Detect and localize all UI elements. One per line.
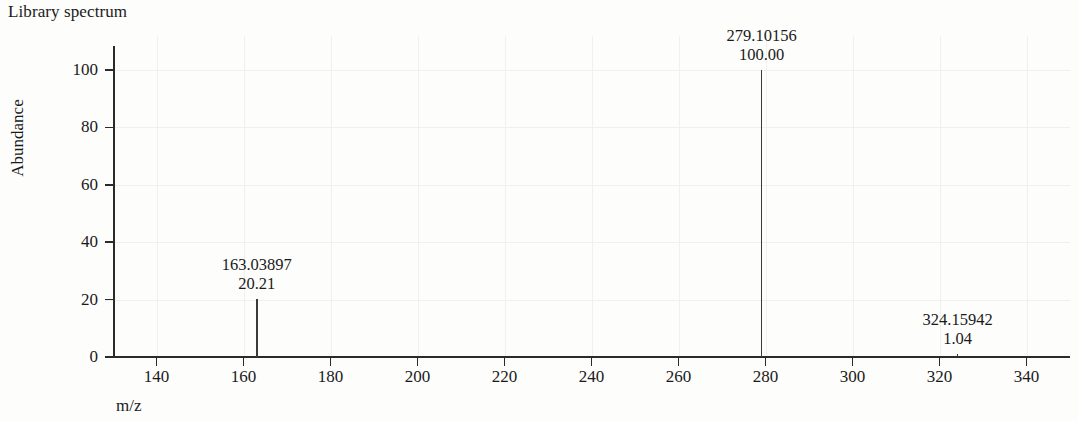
y-axis-tick <box>105 299 114 301</box>
x-axis-tick-label: 320 <box>910 368 970 385</box>
y-axis-tick-label: 20 <box>52 291 98 308</box>
x-axis-tick-label: 300 <box>823 368 883 385</box>
y-axis-tick <box>105 356 114 358</box>
peak-label: 163.0389720.21 <box>162 255 352 294</box>
x-axis-tick <box>852 357 854 366</box>
gridline-vertical <box>157 36 158 359</box>
peak-label: 324.159421.04 <box>863 310 1053 349</box>
gridline-vertical <box>331 36 332 359</box>
gridline-horizontal <box>105 127 1070 128</box>
x-axis-tick <box>939 357 941 366</box>
peak-abundance-value: 1.04 <box>863 329 1053 348</box>
x-axis-title: m/z <box>116 396 142 416</box>
y-axis-tick-label: 40 <box>52 233 98 250</box>
peak-mz-value: 324.15942 <box>863 310 1053 329</box>
y-axis-tick-label: 100 <box>52 61 98 78</box>
x-axis-tick-label: 160 <box>214 368 274 385</box>
x-axis-tick <box>417 357 419 366</box>
y-axis-title: Abundance <box>8 78 28 198</box>
x-axis-tick-label: 240 <box>562 368 622 385</box>
mass-spectrum-figure: Library spectrum Abundance m/z 020406080… <box>0 0 1078 421</box>
y-axis-tick-label: 0 <box>52 348 98 365</box>
x-axis-tick-label: 280 <box>736 368 796 385</box>
y-axis-tick <box>105 127 114 129</box>
x-axis-tick-label: 180 <box>301 368 361 385</box>
x-axis-tick <box>156 357 158 366</box>
page-title: Library spectrum <box>8 2 127 22</box>
x-axis-tick <box>504 357 506 366</box>
peak-stem <box>761 70 763 357</box>
y-axis-tick <box>105 184 114 186</box>
gridline-vertical <box>679 36 680 359</box>
x-axis-tick <box>678 357 680 366</box>
gridline-vertical <box>592 36 593 359</box>
gridline-vertical <box>418 36 419 359</box>
x-axis-tick-label: 220 <box>475 368 535 385</box>
peak-abundance-value: 20.21 <box>162 274 352 293</box>
y-axis-tick-label: 80 <box>52 118 98 135</box>
gridline-horizontal <box>105 70 1070 71</box>
peak-stem <box>957 354 959 357</box>
x-axis-tick-label: 200 <box>388 368 448 385</box>
x-axis-tick-label: 140 <box>127 368 187 385</box>
gridline-vertical <box>244 36 245 359</box>
x-axis-tick <box>591 357 593 366</box>
peak-mz-value: 163.03897 <box>162 255 352 274</box>
y-axis-tick-label: 60 <box>52 176 98 193</box>
gridline-vertical <box>853 36 854 359</box>
peak-abundance-value: 100.00 <box>667 45 857 64</box>
x-axis-tick <box>765 357 767 366</box>
y-axis-line <box>113 46 115 358</box>
peak-stem <box>256 299 258 357</box>
gridline-horizontal <box>105 185 1070 186</box>
x-axis-tick <box>330 357 332 366</box>
gridline-horizontal <box>105 242 1070 243</box>
y-axis-tick <box>105 241 114 243</box>
gridline-horizontal <box>105 300 1070 301</box>
x-axis-tick-label: 340 <box>997 368 1057 385</box>
peak-mz-value: 279.10156 <box>667 26 857 45</box>
y-axis-tick <box>105 69 114 71</box>
gridline-vertical <box>766 36 767 359</box>
x-axis-tick-label: 260 <box>649 368 709 385</box>
gridline-vertical <box>505 36 506 359</box>
x-axis-tick <box>243 357 245 366</box>
x-axis-tick <box>1026 357 1028 366</box>
peak-label: 279.10156100.00 <box>667 26 857 65</box>
